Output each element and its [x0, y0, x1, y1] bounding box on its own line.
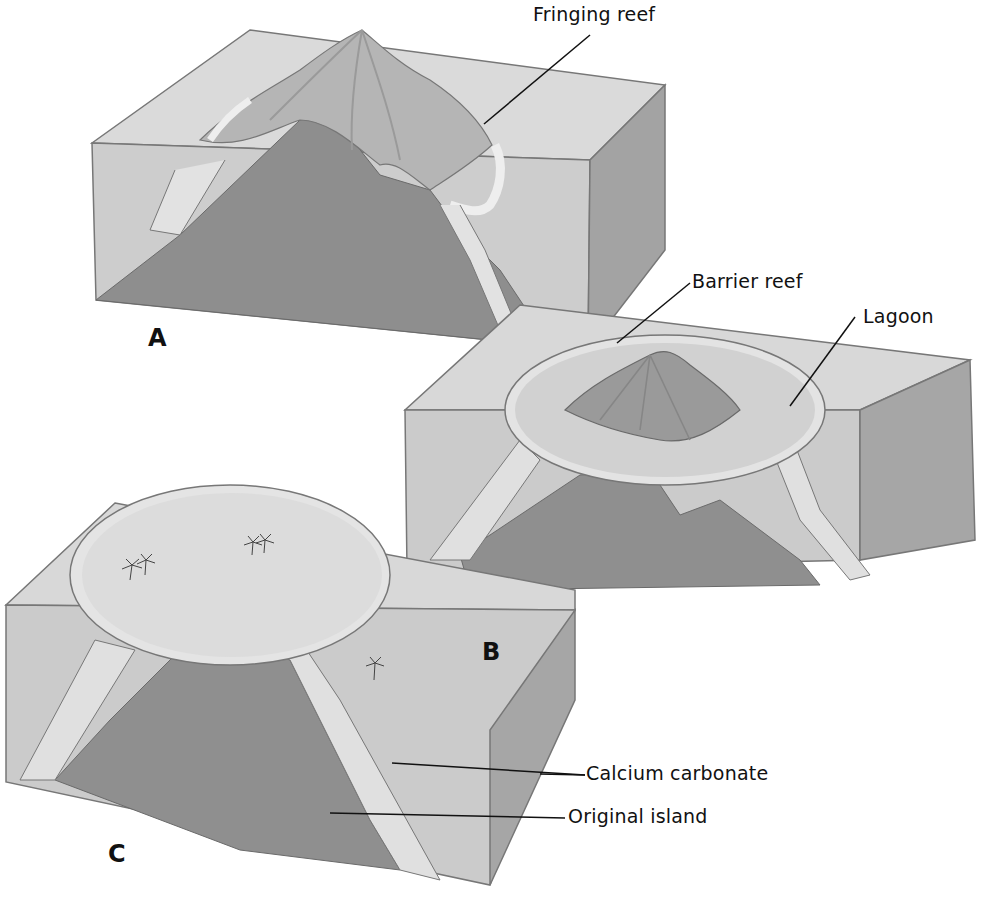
- panel-b-block: [405, 305, 975, 590]
- panel-letter-b: B: [482, 638, 500, 666]
- label-lagoon: Lagoon: [863, 305, 934, 327]
- label-barrier-reef: Barrier reef: [692, 270, 803, 292]
- label-fringing-reef: Fringing reef: [533, 3, 655, 25]
- panel-letter-c: C: [108, 840, 126, 868]
- coral-reef-formation-diagram: [0, 0, 983, 898]
- label-calcium-carbonate: Calcium carbonate: [586, 762, 768, 784]
- label-original-island: Original island: [568, 805, 708, 827]
- panel-a-block: [92, 30, 665, 350]
- panel-letter-a: A: [148, 324, 167, 352]
